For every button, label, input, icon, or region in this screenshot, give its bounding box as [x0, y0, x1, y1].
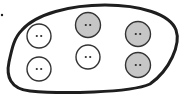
right-eye-dot [139, 33, 141, 35]
right-eye-dot [89, 24, 91, 26]
face-white-middle [76, 45, 100, 69]
marker-dot [1, 14, 3, 16]
right-eye-dot [40, 35, 42, 37]
right-eye-dot [89, 56, 91, 58]
face-white-top-left [27, 24, 51, 48]
white-circle [76, 45, 100, 69]
gray-circle [126, 53, 151, 78]
left-eye-dot [135, 33, 137, 35]
left-eye-dot [85, 24, 87, 26]
gray-circle [76, 13, 101, 38]
white-circle [27, 57, 51, 81]
set-diagram [0, 0, 182, 96]
faces-group [27, 13, 151, 82]
gray-circle [126, 22, 151, 47]
left-eye-dot [85, 56, 87, 58]
white-circle [27, 24, 51, 48]
left-eye-dot [135, 64, 137, 66]
right-eye-dot [40, 68, 42, 70]
face-gray-right-bottom [126, 53, 151, 78]
right-eye-dot [139, 64, 141, 66]
diagram-canvas [0, 0, 182, 96]
face-gray-right-top [126, 22, 151, 47]
face-gray-top-middle [76, 13, 101, 38]
face-white-bottom-left [27, 57, 51, 81]
left-eye-dot [36, 68, 38, 70]
left-eye-dot [36, 35, 38, 37]
